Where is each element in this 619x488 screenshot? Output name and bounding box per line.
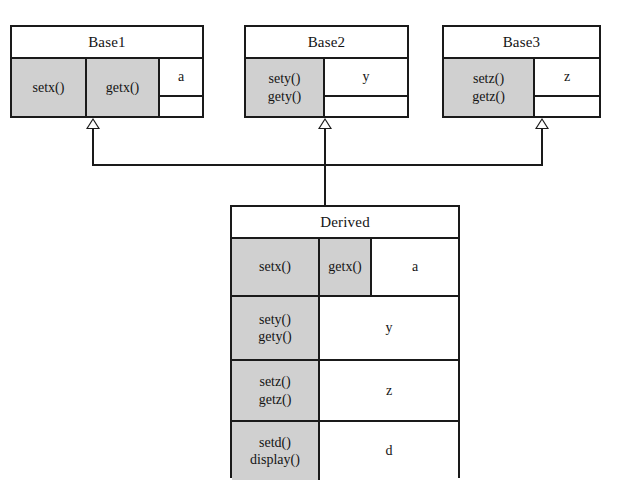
- method-label: getx(): [328, 258, 361, 276]
- attribute-column-base3: z: [535, 59, 599, 116]
- class-members-base3: setz() getz() z: [444, 59, 599, 116]
- attribute-cell-z: z: [320, 361, 458, 420]
- class-members-base1: setx() getx() a: [12, 59, 202, 116]
- uml-class-diagram: Base1 setx() getx() a Base2: [0, 0, 619, 488]
- class-box-base2: Base2 sety() gety() y: [244, 25, 409, 118]
- derived-row-3: setz() getz() z: [232, 361, 458, 422]
- class-box-derived: Derived setx() getx() a sety() gety() y: [230, 205, 460, 478]
- attribute-label: a: [412, 258, 418, 276]
- attribute-cell-a: a: [372, 239, 458, 295]
- connector-stem-base3: [541, 129, 543, 166]
- attribute-label: d: [386, 442, 393, 460]
- method-label: setx(): [33, 79, 65, 97]
- class-title-base2: Base2: [246, 27, 407, 59]
- derived-row-2: sety() gety() y: [232, 297, 458, 361]
- attribute-column-base1: a: [160, 59, 202, 116]
- connector-stem-base2: [324, 129, 326, 166]
- attribute-label: a: [178, 68, 184, 86]
- method-cell-setx: setx(): [12, 59, 87, 116]
- method-cell-sety-gety: sety() gety(): [232, 297, 320, 359]
- method-cell-setz-getz: setz() getz(): [444, 59, 535, 116]
- generalization-arrow-base2-icon: [318, 118, 332, 129]
- generalization-arrow-base1-icon: [86, 118, 100, 129]
- attribute-cell-empty: [535, 97, 599, 116]
- class-name-label: Derived: [320, 214, 370, 231]
- method-label: setx(): [259, 258, 291, 276]
- method-cell-sety-gety: sety() gety(): [246, 59, 325, 116]
- method-label: sety() gety(): [268, 70, 301, 105]
- class-name-label: Base2: [308, 34, 346, 51]
- generalization-arrow-base3-icon: [535, 118, 549, 129]
- class-name-label: Base1: [88, 34, 126, 51]
- method-label: getx(): [106, 79, 139, 97]
- connector-drop-to-derived: [324, 164, 326, 205]
- method-label: setz() getz(): [259, 373, 292, 408]
- attribute-cell-a: a: [160, 59, 202, 97]
- derived-row-4: setd() display() d: [232, 422, 458, 480]
- method-cell-setx: setx(): [232, 239, 320, 295]
- method-cell-setz-getz: setz() getz(): [232, 361, 320, 420]
- connector-stem-base1: [92, 129, 94, 166]
- class-title-derived: Derived: [232, 207, 458, 239]
- method-cell-getx: getx(): [320, 239, 372, 295]
- connector-bus-horizontal: [92, 164, 543, 166]
- attribute-cell-d: d: [320, 422, 458, 480]
- attribute-label: y: [386, 319, 393, 337]
- class-title-base3: Base3: [444, 27, 599, 59]
- attribute-cell-z: z: [535, 59, 599, 97]
- method-label: sety() gety(): [258, 311, 291, 346]
- class-members-base2: sety() gety() y: [246, 59, 407, 116]
- attribute-cell-empty: [160, 97, 202, 116]
- method-cell-getx: getx(): [87, 59, 160, 116]
- attribute-cell-y: y: [325, 59, 407, 97]
- attribute-cell-y: y: [320, 297, 458, 359]
- class-name-label: Base3: [503, 34, 541, 51]
- attribute-cell-empty: [325, 97, 407, 116]
- attribute-label: z: [564, 68, 570, 86]
- class-box-base1: Base1 setx() getx() a: [10, 25, 204, 118]
- method-cell-setd-display: setd() display(): [232, 422, 320, 480]
- attribute-label: y: [363, 68, 370, 86]
- class-title-base1: Base1: [12, 27, 202, 59]
- method-label: setd() display(): [250, 434, 300, 469]
- derived-row-1: setx() getx() a: [232, 239, 458, 297]
- class-box-base3: Base3 setz() getz() z: [442, 25, 601, 118]
- attribute-column-base2: y: [325, 59, 407, 116]
- attribute-label: z: [386, 382, 392, 400]
- method-label: setz() getz(): [472, 70, 505, 105]
